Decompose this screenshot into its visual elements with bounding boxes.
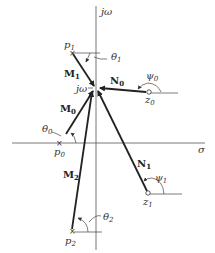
pole-label-p2: p2 <box>65 235 76 248</box>
pole-label-p0: p0 <box>54 146 65 159</box>
angle-arc-theta0 <box>71 133 76 143</box>
zero-marker-z1 <box>146 191 150 195</box>
vector-label-m2: M2 <box>63 169 79 182</box>
theta0-leader <box>52 132 61 136</box>
jw-axis-label: jω <box>99 6 112 17</box>
angle-label-theta0: θ0 <box>42 123 53 136</box>
angle-arc-theta2 <box>78 218 88 232</box>
evaluation-point-label: jω <box>74 83 87 94</box>
zero-label-z1: z1 <box>142 196 153 209</box>
angle-label-psi1: ψ1 <box>155 172 167 185</box>
vector-n0 <box>100 88 146 92</box>
pole-zero-diagram: jω σ jω × p1 θ1 M1 z0 ψ0 N0 × p0 θ0 M0 z… <box>0 0 215 253</box>
zero-label-z0: z0 <box>144 94 155 107</box>
theta2-leader <box>89 216 101 222</box>
pole-label-p1: p1 <box>64 39 75 52</box>
vector-label-n0: N0 <box>110 75 124 88</box>
angle-label-theta1: θ1 <box>111 51 122 64</box>
vector-label-m0: M0 <box>60 103 76 116</box>
vector-label-m1: M1 <box>64 68 80 81</box>
vector-m1 <box>73 54 94 86</box>
angle-label-theta2: θ2 <box>103 211 114 224</box>
sigma-axis-label: σ <box>198 144 206 155</box>
theta1-arc-arrow <box>86 53 90 62</box>
vector-n1 <box>98 91 147 191</box>
vector-label-n1: N1 <box>137 158 151 171</box>
angle-label-psi0: ψ0 <box>146 70 159 83</box>
